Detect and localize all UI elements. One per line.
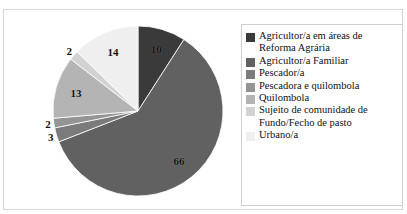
legend-item[interactable]: Agricultor/a Familiar [246, 55, 398, 67]
legend-item-label: Quilombola [259, 92, 309, 104]
legend-item-label: Sujeito de comunidade de Fundo/Fecho de … [259, 104, 398, 129]
legend: Agricultor/a em áreas de Reforma Agrária… [241, 24, 403, 206]
pie-data-label: 13 [71, 87, 82, 99]
clipped-caption-text: ............. [60, 0, 104, 1]
legend-swatch-icon [246, 83, 255, 92]
legend-swatch-icon [246, 132, 255, 141]
chart-frame: 10663213214 Agricultor/a em áreas de Ref… [3, 9, 403, 210]
pie-chart-svg [4, 10, 244, 210]
legend-swatch-icon [246, 33, 255, 42]
pie-slice-group [53, 26, 223, 196]
pie-data-label: 3 [48, 131, 54, 143]
pie-chart: 10663213214 [4, 10, 244, 210]
legend-item-label: Agricultor/a Familiar [259, 55, 349, 67]
legend-item[interactable]: Pescador/a [246, 67, 398, 79]
pie-data-label: 66 [173, 155, 184, 167]
legend-swatch-icon [246, 58, 255, 67]
legend-swatch-icon [246, 95, 255, 104]
legend-item-label: Pescadora e quilombola [259, 80, 359, 92]
pie-data-label: 10 [151, 43, 162, 55]
legend-item-label: Pescador/a [259, 67, 304, 79]
legend-item-label: Urbano/a [259, 129, 298, 141]
legend-item[interactable]: Urbano/a [246, 129, 398, 141]
legend-swatch-icon [246, 70, 255, 79]
clipped-caption-line: ............. [0, 0, 407, 9]
screenshot-root: ............. 10663213214 Agricultor/a e… [0, 0, 407, 214]
legend-item[interactable]: Pescadora e quilombola [246, 80, 398, 92]
legend-item[interactable]: Sujeito de comunidade de Fundo/Fecho de … [246, 104, 398, 129]
pie-data-label: 2 [45, 118, 51, 130]
legend-swatch-icon [246, 107, 255, 116]
legend-item-label: Agricultor/a em áreas de Reforma Agrária [259, 30, 398, 55]
pie-data-label: 2 [67, 45, 73, 57]
pie-data-label: 14 [107, 46, 118, 58]
legend-item[interactable]: Quilombola [246, 92, 398, 104]
legend-item[interactable]: Agricultor/a em áreas de Reforma Agrária [246, 30, 398, 55]
